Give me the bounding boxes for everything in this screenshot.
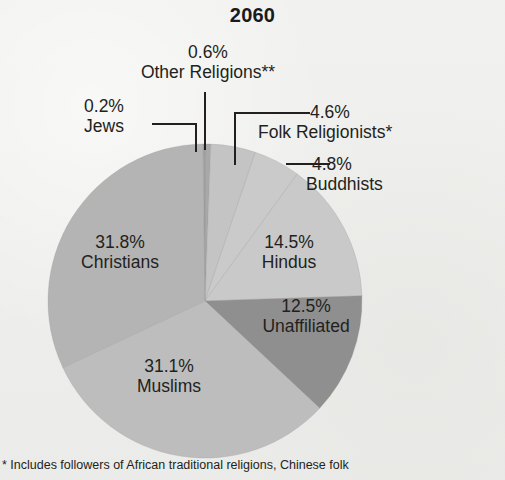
callout-jews: 0.2% Jews bbox=[56, 96, 152, 136]
slice-label-hindus: 14.5% Hindus bbox=[234, 232, 344, 272]
slice-label-christians-value: 31.8% bbox=[95, 232, 145, 252]
slice-label-unaffiliated: 12.5% Unaffiliated bbox=[238, 296, 374, 336]
callout-folk-religionists-value: 4.6% bbox=[310, 102, 392, 122]
callout-other-religions-value: 0.6% bbox=[128, 42, 288, 62]
slice-label-hindus-value: 14.5% bbox=[264, 232, 314, 252]
slice-label-muslims: 31.1% Muslims bbox=[104, 356, 234, 396]
callout-folk-religionists-label: Folk Religionists* bbox=[258, 122, 392, 142]
callout-other-religions: 0.6% Other Religions** bbox=[128, 42, 288, 82]
chart-page: 2060 Other Religions** 0.6%Folk Religion… bbox=[0, 0, 505, 480]
slice-label-christians-name: Christians bbox=[81, 252, 159, 272]
slice-label-muslims-name: Muslims bbox=[137, 376, 201, 396]
slice-label-unaffiliated-value: 12.5% bbox=[281, 296, 331, 316]
callout-jews-value: 0.2% bbox=[56, 96, 152, 116]
callout-buddhists-label: Buddhists bbox=[306, 174, 383, 194]
callout-buddhists-value: 4.8% bbox=[312, 154, 383, 174]
slice-label-hindus-name: Hindus bbox=[262, 252, 316, 272]
callout-buddhists: 4.8% Buddhists bbox=[306, 154, 383, 194]
slice-label-unaffiliated-name: Unaffiliated bbox=[262, 316, 349, 336]
callout-jews-label: Jews bbox=[56, 116, 152, 136]
slice-label-muslims-value: 31.1% bbox=[144, 356, 194, 376]
callout-folk-religionists: 4.6% Folk Religionists* bbox=[258, 102, 392, 142]
slice-label-christians: 31.8% Christians bbox=[50, 232, 190, 272]
footnote-text: * Includes followers of African traditio… bbox=[2, 458, 502, 473]
callout-other-religions-label: Other Religions** bbox=[128, 62, 288, 82]
